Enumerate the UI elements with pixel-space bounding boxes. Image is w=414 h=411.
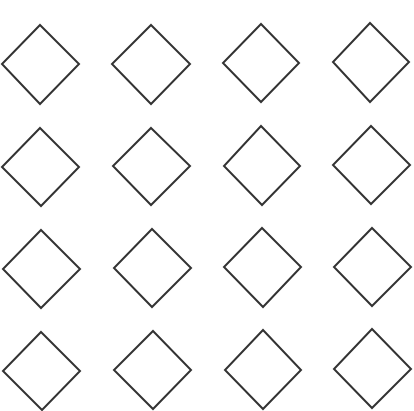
diamond-group <box>2 23 411 410</box>
diamond-shape-r3-c4 <box>334 228 411 306</box>
diamond-shape-r2-c2 <box>113 128 190 205</box>
diamond-shape-r1-c3 <box>223 24 299 102</box>
diamond-shape-r4-c3 <box>225 330 301 409</box>
diamond-shape-r1-c1 <box>2 25 79 104</box>
diamond-shape-r2-c4 <box>333 126 410 204</box>
diamond-shape-r3-c1 <box>3 230 80 308</box>
diamond-shape-r4-c1 <box>3 332 80 410</box>
diamond-grid <box>0 0 414 411</box>
diamond-shape-r2-c1 <box>2 128 79 206</box>
diamond-shape-r1-c4 <box>333 23 409 102</box>
diamond-shape-r1-c2 <box>112 25 190 104</box>
diamond-shape-r2-c3 <box>224 126 300 205</box>
diamond-shape-r4-c2 <box>114 331 191 409</box>
diamond-shape-r3-c3 <box>224 228 301 307</box>
diamond-shape-r4-c4 <box>334 329 411 408</box>
diamond-shape-r3-c2 <box>114 229 191 307</box>
